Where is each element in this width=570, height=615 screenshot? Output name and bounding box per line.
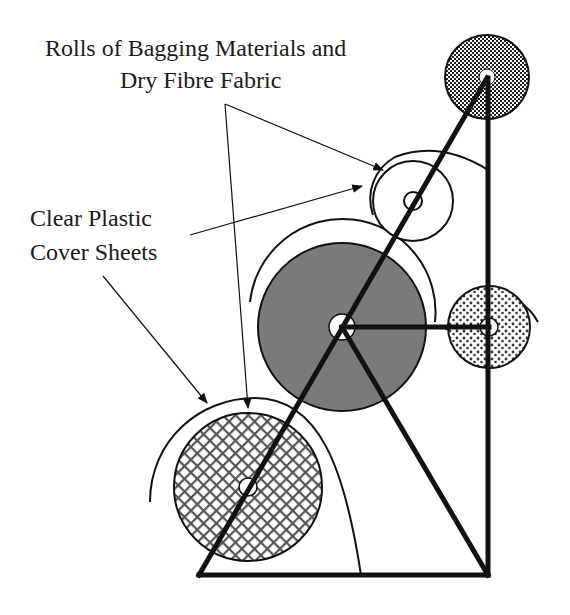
roll-frame-diagram: Rolls of Bagging Materials and Dry Fibre… (0, 0, 570, 615)
cover-label-line1: Clear Plastic (30, 205, 152, 231)
rolls-label-line1: Rolls of Bagging Materials and (45, 35, 346, 61)
cover-label-line2: Cover Sheets (30, 239, 157, 265)
diagram-canvas: Rolls of Bagging Materials and Dry Fibre… (0, 0, 570, 615)
rolls-label-line2: Dry Fibre Fabric (120, 67, 281, 93)
support-frame (199, 78, 489, 575)
